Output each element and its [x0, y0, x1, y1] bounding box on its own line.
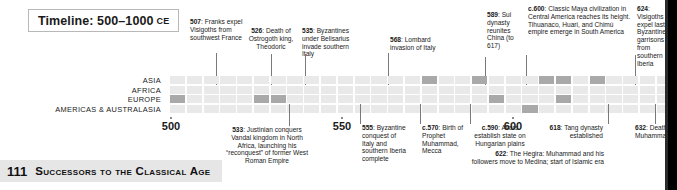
grid-cell	[304, 105, 319, 113]
grid-cell	[338, 105, 353, 113]
annotation-624-text: Visigoths expel last Byzantine garrisons…	[637, 13, 666, 67]
grid-cell	[573, 86, 588, 94]
annotation-533: 533: Justinian conquers Vandal kingdom i…	[222, 126, 312, 165]
grid-cell	[405, 76, 420, 84]
annotation-624-year: 624	[637, 5, 648, 12]
grid-cell	[304, 95, 319, 103]
grid-cell	[556, 105, 571, 113]
annotation-589-year: 589	[487, 11, 498, 18]
grid-cell	[623, 105, 638, 113]
grid-cell	[606, 95, 621, 103]
grid-cell	[640, 95, 655, 103]
leader-line-555	[360, 104, 361, 124]
grid-cell	[321, 76, 336, 84]
grid-cell	[506, 76, 521, 84]
grid-cell	[287, 95, 302, 103]
grid-cell	[187, 95, 202, 103]
annotation-507: 507: Franks expel Visigoths from southwe…	[190, 18, 246, 41]
grid-cell	[455, 105, 470, 113]
grid-cell	[187, 86, 202, 94]
grid-cell	[388, 105, 403, 113]
grid-cell	[556, 76, 571, 84]
grid-cell	[338, 86, 353, 94]
grid-row-africa	[170, 86, 673, 96]
grid-cell	[590, 76, 605, 84]
grid-cell	[338, 95, 353, 103]
grid-cell	[355, 105, 370, 113]
grid-cell	[623, 76, 638, 84]
annotation-570-year: c.570	[422, 124, 439, 131]
grid-cell	[254, 76, 269, 84]
grid-cell	[371, 76, 386, 84]
grid-cell	[573, 105, 588, 113]
grid-cell	[455, 95, 470, 103]
grid-cell	[606, 76, 621, 84]
grid-cell	[405, 95, 420, 103]
grid-cell	[355, 95, 370, 103]
region-label-list: ASIA AFRICA EUROPE AMERICAS & AUSTRALASI…	[0, 76, 166, 114]
grid-cell	[237, 95, 252, 103]
grid-cell	[539, 105, 554, 113]
grid-cell	[472, 105, 487, 113]
axis-dot-600	[512, 117, 514, 119]
annotation-507-year: 507	[190, 18, 201, 25]
grid-cell	[371, 86, 386, 94]
grid-cell	[287, 86, 302, 94]
grid-cell	[506, 86, 521, 94]
grid-cell	[422, 76, 437, 84]
grid-cell	[422, 86, 437, 94]
annotation-618-year: 618	[550, 124, 561, 131]
annotation-568-year: 568	[390, 36, 401, 43]
annotation-533-year: 533	[232, 126, 243, 133]
grid-cell	[170, 86, 185, 94]
annotation-590-year: c.590	[482, 124, 499, 131]
section-title: Successors to the Classical Age	[35, 165, 210, 177]
grid-cell	[522, 95, 537, 103]
annotation-622-year: 622	[495, 150, 506, 157]
grid-cell	[439, 76, 454, 84]
grid-cell	[170, 95, 185, 103]
timeline-page: Timeline: 500–1000 CE 507: Franks expel …	[0, 0, 677, 190]
grid-cell	[321, 95, 336, 103]
grid-cell	[439, 105, 454, 113]
grid-cell	[405, 86, 420, 94]
grid-cell	[405, 105, 420, 113]
grid-cell	[640, 76, 655, 84]
grid-cell	[439, 95, 454, 103]
grid-cell	[556, 86, 571, 94]
grid-cell	[472, 76, 487, 84]
grid-cell	[254, 95, 269, 103]
grid-cell	[355, 86, 370, 94]
grid-cell	[338, 76, 353, 84]
annotation-535-year: 535	[302, 27, 313, 34]
grid-cell	[556, 95, 571, 103]
grid-cell	[472, 95, 487, 103]
grid-cell	[254, 86, 269, 94]
grid-cell	[522, 86, 537, 94]
annotation-526-year: 526	[251, 27, 262, 34]
grid-cell	[422, 105, 437, 113]
axis-dot-550	[341, 117, 343, 119]
grid-cell	[506, 105, 521, 113]
grid-cell	[271, 76, 286, 84]
annotation-600: c.600: Classic Maya civilization in Cent…	[528, 5, 632, 36]
grid-cell	[573, 76, 588, 84]
annotation-590: c.590: Avars establish state on Hungaria…	[472, 124, 528, 147]
grid-cell	[623, 86, 638, 94]
grid-cell	[439, 86, 454, 94]
axis-tick-550: 550	[325, 120, 359, 132]
grid-cell	[371, 105, 386, 113]
grid-cell	[287, 76, 302, 84]
annotation-618-text: Tang dynasty established	[564, 124, 603, 139]
annotation-632-year: 632	[635, 124, 646, 131]
grid-cell	[623, 95, 638, 103]
timeline-title-box: Timeline: 500–1000 CE	[28, 9, 179, 32]
grid-cell	[204, 95, 219, 103]
grid-cell	[271, 95, 286, 103]
grid-cell	[304, 76, 319, 84]
grid-cell	[321, 105, 336, 113]
grid-cell	[455, 86, 470, 94]
page-title: Timeline: 500–1000	[38, 14, 154, 28]
leader-line-618	[608, 104, 609, 124]
page-gutter	[668, 0, 677, 190]
